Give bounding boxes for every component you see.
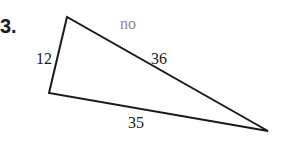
side-top-label: 36 <box>151 50 167 67</box>
triangle-diagram: 3. 12 no 36 35 <box>0 0 282 154</box>
answer-note: no <box>120 15 136 32</box>
problem-number: 3. <box>0 15 17 37</box>
side-left-label: 12 <box>36 50 52 67</box>
side-bottom-label: 35 <box>128 114 144 131</box>
triangle-shape <box>49 17 268 131</box>
